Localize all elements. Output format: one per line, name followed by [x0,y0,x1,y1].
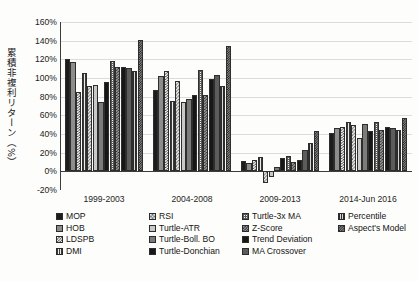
bar [263,171,268,183]
bar [93,85,98,172]
bar [390,128,395,171]
y-axis-tick-20: 20% [40,148,57,158]
legend-label: MOP [66,212,86,221]
legend-swatch-icon [56,248,63,255]
bar [308,143,313,171]
bar [65,59,70,171]
bar [340,127,345,172]
y-axis-tick-80: 80% [40,92,57,102]
legend-swatch-icon [149,225,156,232]
x-axis-tick-label: 2014-Jun 2016 [339,194,396,204]
legend-label: Turtle-ATR [159,224,200,233]
legend-swatch-icon [242,225,249,232]
bar [132,71,137,171]
bar [297,160,302,171]
legend-item: Turtle-Boll. BO [149,235,215,244]
legend-item: HOB [56,224,85,233]
legend-item: MOP [56,212,86,221]
plot-area [60,22,412,190]
bar [302,150,307,171]
bar [351,125,356,172]
bar [175,81,180,172]
legend-label: Z-Score [252,224,283,233]
legend-label: Percentile [348,212,386,221]
x-axis-tick-label: 2009-2013 [259,194,300,204]
legend-swatch-icon [338,225,345,232]
legend-label: HOB [66,224,85,233]
legend-swatch-icon [149,236,156,243]
legend-swatch-icon [242,236,249,243]
x-axis-tick-label: 2004-2008 [171,194,212,204]
bar [203,95,208,172]
legend-item: Turtle-ATR [149,224,200,233]
legend-item: LDSPB [56,235,94,244]
x-axis-tick-labels: 1999-20032004-20082009-20132014-Jun 2016 [60,194,412,208]
bar [346,122,351,171]
bar [170,101,175,171]
y-axis-tick-140: 140% [35,36,57,46]
bar [280,158,285,171]
bar [198,70,203,172]
legend-item: Aspect's Model [338,224,406,233]
bar [368,131,373,171]
legend-swatch-icon [56,236,63,243]
y-axis-tick--20: -20% [37,185,57,195]
bar [379,130,384,171]
bar [291,162,296,171]
y-axis-tick-120: 120% [35,54,57,64]
bar [241,161,246,171]
legend-label: Aspect's Model [348,224,406,233]
bar [396,130,401,171]
bar [158,76,163,171]
bar [104,82,109,172]
bar [402,118,407,171]
legend-item: Turtle-Donchian [149,247,220,256]
bar [329,133,334,171]
legend-label: DMI [66,247,82,256]
bar [110,61,115,171]
bar [334,128,339,171]
bar [269,171,274,177]
legend-item: DMI [56,247,82,256]
bar [214,75,219,171]
legend-label: Turtle-Donchian [159,247,220,256]
chart-figure: 累積非複利リターン（%） 160%140%120%100%80%60%40%20… [0,0,418,281]
y-axis-tick-60: 60% [40,110,57,120]
bar [385,127,390,171]
bar [82,73,87,171]
y-axis-tick-labels: 160%140%120%100%80%60%40%20%0%-20% [18,0,57,281]
bar [70,62,75,171]
legend-label: MA Crossover [252,247,306,256]
bar-series-container [60,22,412,190]
bar [153,90,158,171]
y-axis-tick-40: 40% [40,129,57,139]
bar [226,46,231,171]
bar [314,131,319,171]
legend-label: RSI [159,212,173,221]
bar [286,156,291,171]
bar [209,79,214,171]
legend-swatch-icon [242,213,249,220]
bar [87,86,92,171]
bar [252,160,257,171]
bar [121,67,126,172]
bar [220,86,225,171]
legend-swatch-icon [242,248,249,255]
bar [192,95,197,172]
legend-label: LDSPB [66,235,94,244]
legend-label: Turtle-3x MA [252,212,301,221]
legend-item: Turtle-3x MA [242,212,301,221]
bar [181,102,186,171]
legend-item: Trend Deviation [242,235,312,244]
y-axis-tick-0: 0% [45,166,57,176]
bar [258,157,263,171]
x-axis-tick-label: 1999-2003 [83,194,124,204]
legend-swatch-icon [149,213,156,220]
legend-item: MA Crossover [242,247,306,256]
legend-item: Percentile [338,212,386,221]
bar [98,102,103,171]
bar [138,40,143,172]
y-axis-tick-100: 100% [35,73,57,83]
bar [374,122,379,171]
bar [126,68,131,172]
